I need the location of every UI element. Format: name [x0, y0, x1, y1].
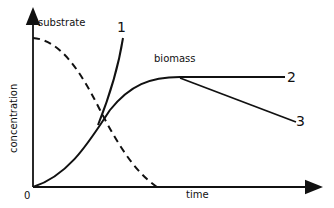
y-axis-label: concentration — [8, 84, 19, 153]
biomass-label: biomass — [154, 54, 196, 64]
substrate-label: substrate — [38, 18, 85, 28]
curve-1-label: 1 — [117, 20, 126, 34]
curve-2-label: 2 — [287, 70, 296, 84]
growth-curve-diagram — [0, 0, 334, 208]
curve-3-label: 3 — [296, 114, 305, 128]
origin-label: 0 — [24, 191, 30, 201]
curve-3-decline — [180, 78, 296, 122]
curve-1-exponential — [98, 38, 123, 125]
biomass-curve — [33, 77, 180, 187]
x-axis-label: time — [186, 190, 209, 200]
substrate-curve — [33, 38, 157, 187]
